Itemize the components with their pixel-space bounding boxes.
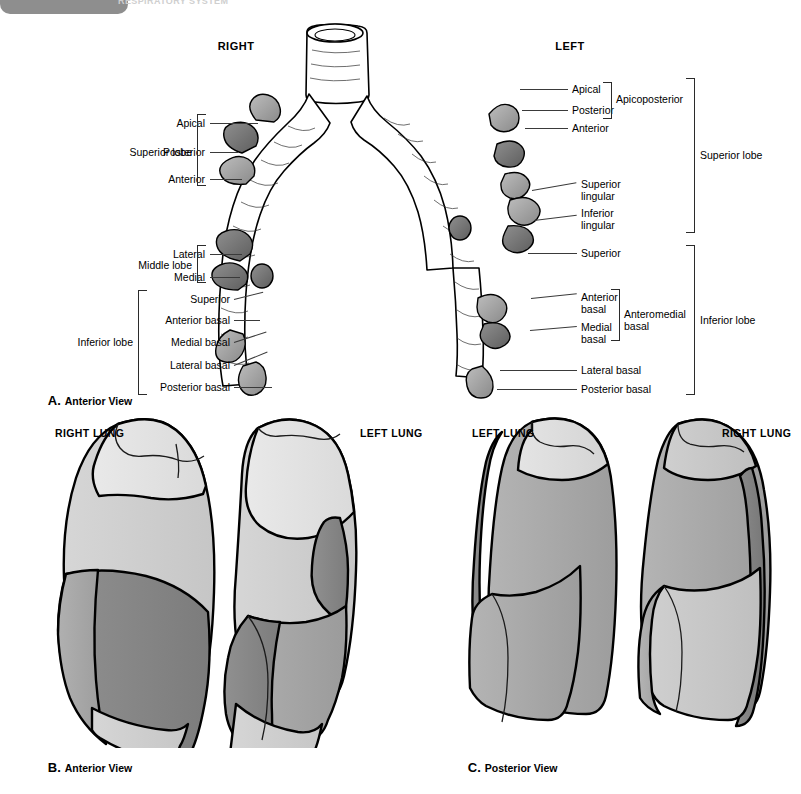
label-left-inferior-lingular: Inferior lingular [581,208,615,231]
label-left-anteromedial-basal: Anteromedial basal [624,309,686,332]
panel-c-caption-letter: C. [468,760,481,775]
leader-right-anterior [210,179,242,180]
leader-left-posterior [522,110,568,111]
label-right-lateral-basal: Lateral basal [170,360,230,372]
label-left-superior-lingular: Superior lingular [581,179,621,202]
page-header-title: RESPIRATORY SYSTEM [118,0,228,6]
label-right-medial-basal: Medial basal [171,337,230,349]
panel-b-right-lung-label: RIGHT LUNG [55,427,124,439]
label-left-medial-basal: Medial basal [581,322,612,345]
bracket-left-apicoposterior [603,82,612,119]
bracket-left-inferior-lobe [686,245,695,395]
label-left-lateral-basal: Lateral basal [581,365,641,377]
leader-right-medial [210,277,240,278]
label-left-apicoposterior: Apicoposterior [616,94,683,106]
leader-right-posterior [210,152,238,153]
label-right-middle-lobe: Middle lobe [138,260,192,272]
panel-a-header-left: LEFT [555,40,585,52]
leader-right-apical [210,123,258,124]
label-right-inferior-lobe: Inferior lobe [78,337,133,349]
leader-right-anterior-basal [234,320,260,321]
bracket-right-inferior-lobe [138,290,147,395]
bracket-left-superior-lobe [686,78,695,233]
label-left-posterior-basal: Posterior basal [581,384,651,396]
label-left-inferior-lobe: Inferior lobe [700,315,755,327]
panel-c-right-lung-label: RIGHT LUNG [722,427,791,439]
panel-c-caption-text: Posterior View [485,762,558,774]
label-right-anterior-basal: Anterior basal [165,315,230,327]
label-left-apical: Apical [572,84,601,96]
panel-b-lungs-art [0,408,440,748]
panel-c-left-lung-label: LEFT LUNG [472,427,535,439]
panel-a-caption-text: Anterior View [65,395,133,407]
bracket-right-superior-lobe [197,114,206,186]
page-header-strip: RESPIRATORY SYSTEM [0,0,801,14]
leader-left-anterior [525,128,568,129]
label-left-superior-lobe: Superior lobe [700,150,762,162]
panel-b-caption-letter: B. [48,760,61,775]
leader-left-apical [520,89,568,90]
leader-right-lateral [210,254,242,255]
panel-a-caption-letter: A. [48,393,61,408]
label-right-posterior-basal: Posterior basal [160,382,230,394]
panel-b-left-lung-label: LEFT LUNG [360,427,423,439]
leader-right-posterior-basal [234,387,272,388]
panel-b-caption: B.Anterior View [30,740,132,794]
label-right-superior-lobe: Superior lobe [130,147,192,159]
panel-a-header-right: RIGHT [218,40,255,52]
bracket-left-anteromedial-basal [611,289,620,341]
leader-left-superior [528,253,577,254]
label-right-superior: Superior [190,294,230,306]
page-canvas: RESPIRATORY SYSTEM [0,0,801,794]
page-number-tab [0,0,128,14]
panel-b-caption-text: Anterior View [65,762,133,774]
label-left-anterior: Anterior [572,123,609,135]
panel-c-lungs-art [440,408,801,748]
panel-c-caption: C.Posterior View [450,740,558,794]
bracket-right-middle-lobe [197,245,206,283]
leader-left-posterior-basal [497,389,577,390]
leader-left-lateral-basal [500,370,577,371]
label-left-superior: Superior [581,248,621,260]
